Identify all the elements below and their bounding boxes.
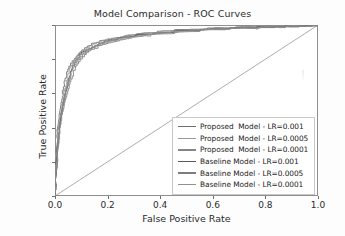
legend-label: Baseline Model - LR=0.001 xyxy=(200,157,299,166)
legend-label: Baseline Model - LR=0.0001 xyxy=(200,180,303,189)
y-axis-label: True Positive Rate xyxy=(37,31,48,202)
legend-item[interactable]: Proposed Model - LR=0.0005 xyxy=(176,133,310,145)
chart-legend: Proposed Model - LR=0.001Proposed Model … xyxy=(172,117,315,195)
x-tick-mark xyxy=(108,196,109,199)
y-tick-mark xyxy=(52,162,55,163)
legend-color-swatch xyxy=(178,172,196,173)
x-axis-label: False Positive Rate xyxy=(55,213,318,224)
x-tick-label: 0.2 xyxy=(88,200,128,210)
legend-color-swatch xyxy=(178,184,196,185)
legend-label: Proposed Model - LR=0.0005 xyxy=(200,134,308,143)
scan-artifact xyxy=(302,70,304,80)
x-tick-label: 1.0 xyxy=(298,200,338,210)
x-tick-mark xyxy=(318,196,319,199)
x-tick-mark xyxy=(265,196,266,199)
legend-label: Proposed Model - LR=0.0001 xyxy=(200,145,308,154)
legend-label: Baseline Model - LR=0.0005 xyxy=(200,169,303,178)
x-tick-label: 0.6 xyxy=(193,200,233,210)
y-tick-mark xyxy=(52,196,55,197)
legend-color-swatch xyxy=(178,161,196,162)
x-tick-label: 0.8 xyxy=(245,200,285,210)
legend-label: Proposed Model - LR=0.001 xyxy=(200,122,304,131)
x-tick-mark xyxy=(160,196,161,199)
x-tick-mark xyxy=(55,196,56,199)
legend-item[interactable]: Baseline Model - LR=0.0001 xyxy=(176,179,310,191)
y-tick-mark xyxy=(52,25,55,26)
legend-item[interactable]: Baseline Model - LR=0.001 xyxy=(176,156,310,168)
legend-item[interactable]: Baseline Model - LR=0.0005 xyxy=(176,167,310,179)
legend-item[interactable]: Proposed Model - LR=0.001 xyxy=(176,121,310,133)
chart-title: Model Comparison - ROC Curves xyxy=(0,8,345,19)
legend-color-swatch xyxy=(178,138,196,139)
y-tick-mark xyxy=(52,93,55,94)
roc-curve-figure: Model Comparison - ROC Curves 0.00.20.40… xyxy=(0,0,345,236)
y-tick-mark xyxy=(52,59,55,60)
legend-item[interactable]: Proposed Model - LR=0.0001 xyxy=(176,144,310,156)
legend-color-swatch xyxy=(178,149,196,150)
x-tick-mark xyxy=(213,196,214,199)
legend-color-swatch xyxy=(178,126,196,127)
y-tick-mark xyxy=(52,128,55,129)
x-tick-label: 0.4 xyxy=(140,200,180,210)
